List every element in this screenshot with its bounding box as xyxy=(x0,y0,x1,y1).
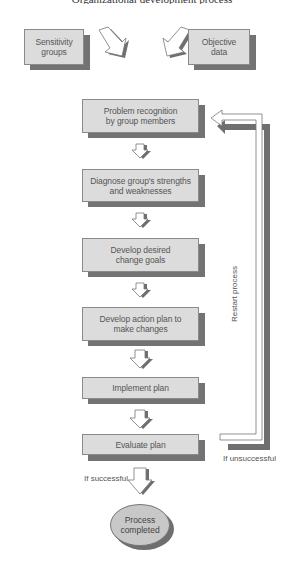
process-completed-terminal: Process completed xyxy=(110,504,170,546)
down-arrow-icon-5 xyxy=(130,410,153,429)
step-problem-recognition: Problem recognition by group members xyxy=(82,99,199,133)
step-line2: change goals xyxy=(116,255,165,265)
terminal-line1: Process xyxy=(125,515,156,525)
step-line1: Develop action plan to xyxy=(100,314,182,324)
step-line1: Develop desired xyxy=(111,245,171,255)
connectors-layer xyxy=(0,0,304,565)
down-arrow-icon-2 xyxy=(132,213,151,228)
sensitivity-groups-line1: Sensitivity xyxy=(35,37,72,47)
step-line2: and weaknesses xyxy=(110,186,172,196)
step-line2: by group members xyxy=(106,116,175,126)
objective-data-line2: data xyxy=(211,47,227,57)
restart-process-label: Restart process xyxy=(230,266,239,322)
sensitivity-groups-box: Sensitivity groups xyxy=(24,29,84,65)
if-successful-label: If successful xyxy=(84,474,128,483)
step-develop-action-plan: Develop action plan to make changes xyxy=(82,307,199,341)
step-implement-plan: Implement plan xyxy=(82,377,199,399)
success-arrow-icon xyxy=(128,468,155,495)
terminal-line2: completed xyxy=(120,525,159,535)
down-arrow-icon-1 xyxy=(132,144,151,159)
restart-loop-arrow-icon xyxy=(211,110,270,450)
objective-data-line1: Objective xyxy=(202,37,237,47)
objective-data-box: Objective data xyxy=(188,29,250,65)
down-arrow-icon-3 xyxy=(132,283,151,298)
step-line1: Problem recognition xyxy=(104,106,178,116)
step-line1: Implement plan xyxy=(112,383,169,393)
step-evaluate-plan: Evaluate plan xyxy=(82,434,199,455)
step-line2: make changes xyxy=(113,324,167,334)
diagonal-arrow-icon-left xyxy=(99,27,129,58)
step-diagnose: Diagnose group's strengths and weaknesse… xyxy=(82,169,199,202)
step-line1: Diagnose group's strengths xyxy=(90,176,191,186)
sensitivity-groups-line2: groups xyxy=(41,47,66,57)
if-unsuccessful-label: If unsuccessful xyxy=(223,454,276,463)
step-line1: Evaluate plan xyxy=(115,440,165,450)
down-arrow-icon-4 xyxy=(130,350,153,369)
step-develop-goals: Develop desired change goals xyxy=(82,238,199,272)
